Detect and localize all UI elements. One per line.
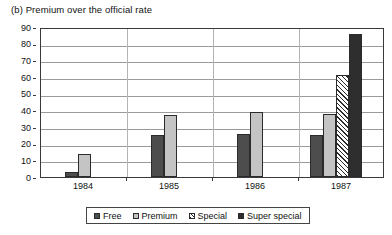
bar-premium-1987 [323,114,336,177]
x-axis-tick-mark [298,178,299,181]
y-axis-tick-label: 80 [21,40,31,49]
y-axis-tick-mark [33,111,36,112]
y-axis-tick-label: 0 [26,174,31,183]
legend-item-free: Free [94,211,122,221]
bar-super-special-1987 [349,34,362,177]
y-axis-tick-mark [33,145,36,146]
x-axis-tick-label: 1986 [212,181,298,192]
y-axis-tick-label: 40 [21,107,31,116]
legend-swatch-premium-icon [133,213,139,219]
plot-area [40,28,384,178]
x-axis-tick-label: 1987 [298,181,384,192]
y-axis-tick-label: 10 [21,157,31,166]
legend-label: Free [103,211,122,221]
x-axis-tick-mark [212,178,213,181]
y-axis-tick-mark [33,45,36,46]
chart-title: (b) Premium over the official rate [11,4,152,16]
y-axis-tick-label: 70 [21,57,31,66]
y-axis-tick-mark [33,95,36,96]
x-axis-tick-label: 1985 [126,181,212,192]
bar-free-1985 [151,135,164,177]
y-axis-tick-mark [33,61,36,62]
legend-swatch-special-icon [189,213,195,219]
x-axis-tick-mark [126,178,127,181]
y-axis-tick-mark [33,78,36,79]
bar-free-1986 [237,134,250,177]
bar-special-1987 [336,75,349,177]
legend-label: Special [198,211,228,221]
legend-item-premium: Premium [133,211,178,221]
y-axis-tick-label: 20 [21,140,31,149]
y-axis-tick-mark [33,28,36,29]
legend-label: Super special [247,211,302,221]
bar-premium-1985 [164,115,177,177]
y-axis-tick-label: 30 [21,124,31,133]
y-axis: 0102030405060708090 [0,28,36,178]
bar-free-1987 [310,135,323,177]
legend-label: Premium [142,211,178,221]
y-axis-tick-mark [33,128,36,129]
legend-item-super-special: Super special [238,211,302,221]
x-axis: 1984198519861987 [40,181,384,195]
y-axis-tick-label: 60 [21,74,31,83]
bar-premium-1986 [250,112,263,177]
bar-premium-1984 [78,154,91,177]
chart-legend: FreePremiumSpecialSuper special [86,207,310,224]
y-axis-tick-mark [33,161,36,162]
legend-swatch-free-icon [94,213,100,219]
bar-free-1984 [65,172,78,177]
x-axis-tick-label: 1984 [40,181,126,192]
legend-item-special: Special [189,211,228,221]
y-axis-tick-label: 50 [21,90,31,99]
legend-swatch-super-special-icon [238,213,244,219]
y-axis-tick-label: 90 [21,24,31,33]
bars-layer [41,29,383,177]
premium-over-official-rate-chart: (b) Premium over the official rate 01020… [0,0,392,235]
y-axis-tick-mark [33,178,36,179]
